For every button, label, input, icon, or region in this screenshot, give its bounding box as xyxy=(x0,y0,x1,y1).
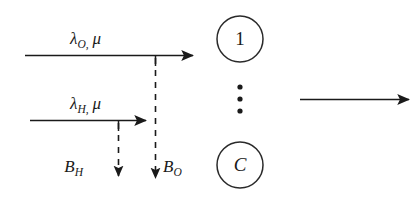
server-ellipsis xyxy=(237,84,242,113)
arrival-stream-o: λO,μ xyxy=(25,29,193,66)
arrival-o-lambda-glyph: λ xyxy=(69,29,77,48)
ellipsis-dot-3 xyxy=(237,108,242,113)
arrival-h-lambda-glyph: λ xyxy=(69,94,77,113)
arrival-o-mu-glyph: μ xyxy=(92,29,102,48)
server-first-label: 1 xyxy=(235,28,245,49)
blocking-branch-h: BH xyxy=(64,123,118,179)
arrival-o-label: λO,μ xyxy=(69,29,101,51)
arrival-h-comma-glyph: , xyxy=(86,103,89,116)
blocking-o-label: BO xyxy=(163,157,182,179)
server-node-first: 1 xyxy=(217,16,263,62)
queueing-diagram: λO,μ λH,μ BO BH xyxy=(0,0,414,202)
ellipsis-dot-2 xyxy=(237,96,242,101)
arrival-h-label: λH,μ xyxy=(69,94,101,116)
figure-canvas: λO,μ λH,μ BO BH xyxy=(0,0,414,202)
blocking-h-subscript-glyph: H xyxy=(74,166,84,179)
arrival-h-mu-glyph: μ xyxy=(92,94,102,113)
arrival-stream-h: λH,μ xyxy=(30,94,146,131)
blocking-h-base-glyph: B xyxy=(64,157,75,176)
ellipsis-dot-1 xyxy=(237,84,242,89)
blocking-o-subscript-glyph: O xyxy=(173,166,182,179)
server-last-label: C xyxy=(234,154,247,175)
server-node-last: C xyxy=(217,142,263,188)
blocking-branch-o: BO xyxy=(156,58,183,179)
server-group: 1 C xyxy=(217,16,263,188)
blocking-o-base-glyph: B xyxy=(163,157,174,176)
blocking-h-label: BH xyxy=(64,157,83,179)
arrival-o-comma-glyph: , xyxy=(86,38,89,51)
